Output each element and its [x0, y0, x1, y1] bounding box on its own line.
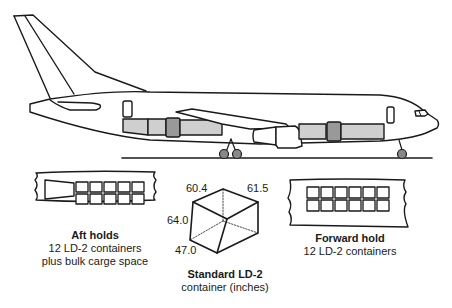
ld2-container-slot [321, 187, 333, 198]
ld2-container-slot [104, 194, 116, 204]
aft-door [123, 101, 132, 117]
forward-hold-cross-section [288, 179, 408, 227]
ld2-container-slot [321, 200, 333, 211]
ld2-container-slot [349, 200, 361, 211]
engine [253, 126, 302, 148]
aft-hold-line1: 12 LD-2 containers [20, 242, 170, 255]
ld2-container-slot [377, 200, 389, 211]
dimension-top-right: 61.5 [247, 182, 268, 194]
ld2-container-slot [335, 187, 347, 198]
forward-hold-line1: 12 LD-2 containers [290, 245, 410, 258]
ld2-container-slot [363, 200, 375, 211]
ld2-container-slot [118, 182, 130, 192]
ld2-container-slot [76, 182, 88, 192]
dimension-top-left: 60.4 [186, 182, 207, 194]
dimension-left: 64.0 [167, 214, 188, 226]
ld2-container-slot [307, 200, 319, 211]
bulk-cargo-space [45, 180, 74, 199]
forward-hold-caption: Forward hold 12 LD-2 containers [290, 232, 410, 258]
cockpit-window [415, 110, 428, 116]
aft-hold-title: Aft holds [20, 229, 170, 242]
ld2-container-slot [349, 187, 361, 198]
ld2-container-slot [307, 187, 319, 198]
forward-hold-title: Forward hold [290, 232, 410, 245]
forward-cargo-containers [299, 122, 384, 141]
ld2-container-slot [90, 182, 102, 192]
ld2-container-slot [76, 194, 88, 204]
ld2-container-slot [363, 187, 375, 198]
tail-fin [14, 15, 146, 98]
aft-hold-line2: plus bulk carge space [20, 255, 170, 268]
ld2-title: Standard LD-2 [160, 268, 290, 281]
ld2-caption: Standard LD-2 container (inches) [160, 268, 290, 294]
ld2-container-slot [90, 194, 102, 204]
ld2-container-slot [104, 182, 116, 192]
ld2-container-slot [132, 182, 144, 192]
ld2-container-slot [132, 194, 144, 204]
ld2-container-slot [335, 200, 347, 211]
ld2-container-slot [377, 187, 389, 198]
forward-door [387, 107, 394, 123]
ld2-container-isometric [190, 189, 258, 253]
aft-hold-caption: Aft holds 12 LD-2 containers plus bulk c… [20, 229, 170, 268]
ld2-container-slot [118, 194, 130, 204]
nose-landing-gear [398, 140, 407, 159]
aft-cargo-containers [123, 118, 222, 137]
dimension-bottom: 47.0 [175, 244, 196, 256]
aft-hold-cross-section [35, 171, 156, 204]
ld2-subtitle: container (inches) [160, 281, 290, 294]
